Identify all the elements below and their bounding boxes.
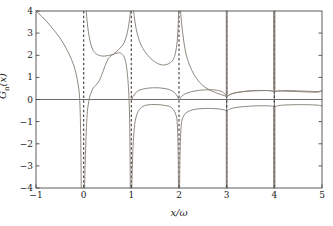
- y-axis-label-base: G: [0, 91, 8, 99]
- ytick-label-6: −2: [20, 139, 33, 148]
- ytick-label-0: 4: [27, 7, 33, 16]
- xtick-label-3: 2: [176, 191, 182, 200]
- ytick-label-5: −1: [20, 117, 33, 126]
- x-axis-label-text: x/ω: [170, 207, 187, 218]
- y-axis-label-subscript: n: [3, 86, 11, 91]
- ytick-label-2: 2: [27, 51, 33, 60]
- ytick-label-3: 1: [27, 73, 33, 82]
- ytick-label-7: −3: [20, 161, 33, 170]
- ytick-label-4: 0: [27, 95, 33, 104]
- plot-canvas: [0, 0, 333, 226]
- y-axis-label-argument: (x): [0, 73, 8, 86]
- y-axis-label: Gn(x): [0, 73, 11, 99]
- ytick-label-1: 3: [27, 29, 33, 38]
- xtick-label-2: 1: [128, 191, 134, 200]
- xtick-label-6: 5: [319, 191, 325, 200]
- figure-container: −1 0 1 2 3 4 5 4 3 2 1 0 −1 −2 −3 −4 x/ω…: [0, 0, 333, 226]
- xtick-label-5: 4: [271, 191, 277, 200]
- x-axis-label: x/ω: [170, 207, 187, 218]
- ytick-label-8: −4: [20, 184, 33, 193]
- xtick-label-4: 3: [224, 191, 230, 200]
- xtick-label-1: 0: [81, 191, 87, 200]
